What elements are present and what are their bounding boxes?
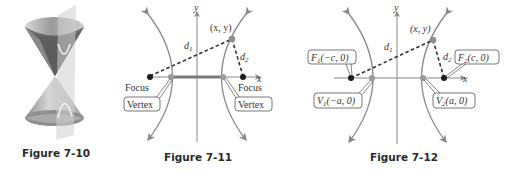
d2-label: d2 (443, 51, 452, 64)
point-on-hyperbola (229, 36, 236, 43)
v1-leader (358, 80, 373, 94)
vertex-right-label: Vertex (238, 99, 264, 110)
figure-7-10: Figure 7-10 (22, 5, 90, 159)
y-axis-label: y (193, 2, 199, 13)
vertex-left-label: Vertex (127, 99, 153, 110)
d1-label: d1 (384, 41, 393, 54)
focus-right-label: Focus (238, 82, 262, 93)
point-on-hyperbola (430, 37, 437, 44)
cutting-plane (56, 5, 76, 140)
f1-leader (346, 64, 352, 75)
figure-7-12-caption: Figure 7-12 (370, 151, 438, 163)
vertex-right-dot (220, 74, 226, 80)
focus-left-dot (147, 74, 153, 80)
point-label: (x, y) (410, 23, 431, 35)
focus-left-label: Focus (125, 82, 149, 93)
focus-f1-dot (348, 75, 354, 81)
figure-7-11: y x d1 d2 (x, y) Focus Focus Vertex Vert… (124, 2, 272, 163)
point-label: (x, y) (210, 22, 232, 34)
y-axis-label: y (393, 2, 399, 13)
double-cone-illustration (25, 5, 84, 140)
vertex-v2-dot (420, 75, 426, 81)
d2-label: d2 (240, 51, 249, 64)
vertex-left-leader (156, 79, 172, 98)
figures-canvas: Figure 7-10 y x d1 d2 (x, y) Focus Focus… (0, 0, 510, 179)
d1-label: d1 (184, 40, 193, 53)
figure-7-11-caption: Figure 7-11 (164, 151, 232, 163)
vertex-left-dot (168, 74, 174, 80)
figure-7-12: y x d1 d2 (x, y) F1(−c, 0) F2(c, 0) V1(−… (308, 2, 499, 163)
v2-leader (424, 79, 441, 94)
vertex-v1-dot (369, 75, 375, 81)
figure-7-10-caption: Figure 7-10 (22, 147, 90, 159)
focus-right-dot (240, 74, 246, 80)
x-axis-label: x (462, 73, 468, 84)
